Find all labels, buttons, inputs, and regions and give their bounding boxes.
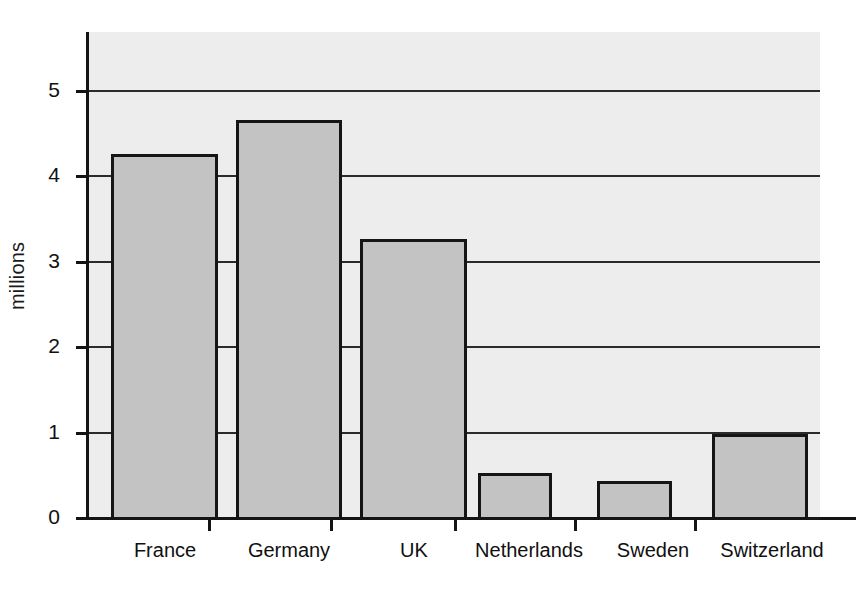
y-tick-mark-3 (76, 261, 89, 264)
x-tick-label-switzerland: Switzerland (692, 538, 852, 562)
y-tick-mark-5 (76, 90, 89, 93)
bar-switzerland (712, 434, 808, 520)
x-tick-label-netherlands: Netherlands (454, 538, 604, 562)
y-tick-label-4: 4 (0, 164, 60, 185)
x-tick-mark-2 (330, 518, 333, 531)
bar-chart-figure: millions 5 4 3 2 1 0 France Germany UK N… (0, 0, 856, 600)
y-axis-line (86, 32, 89, 520)
bar-netherlands (478, 473, 552, 520)
y-axis-title: millions (6, 170, 29, 310)
y-tick-label-5: 5 (0, 79, 60, 100)
x-tick-label-france: France (98, 538, 232, 562)
y-tick-label-0: 0 (0, 506, 60, 527)
x-tick-mark-3 (454, 518, 457, 531)
x-tick-label-germany: Germany (222, 538, 356, 562)
x-tick-mark-4 (574, 518, 577, 531)
y-tick-mark-2 (76, 346, 89, 349)
y-tick-mark-0 (76, 517, 89, 520)
y-tick-label-1: 1 (0, 421, 60, 442)
y-tick-label-3: 3 (0, 250, 60, 271)
bar-uk (360, 239, 467, 520)
y-tick-label-2: 2 (0, 335, 60, 356)
x-axis-line (86, 517, 856, 520)
bar-france (111, 154, 218, 520)
x-tick-mark-5 (694, 518, 697, 531)
bar-germany (236, 120, 342, 520)
gridline-5 (88, 90, 820, 92)
bar-sweden (597, 481, 672, 520)
y-tick-mark-1 (76, 432, 89, 435)
x-tick-mark-1 (208, 518, 211, 531)
y-tick-mark-4 (76, 175, 89, 178)
